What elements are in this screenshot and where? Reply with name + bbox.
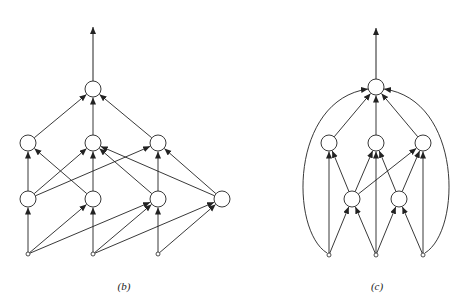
neuron-node [150, 135, 166, 151]
edge-arrow [377, 207, 396, 253]
edge-arrow [30, 204, 87, 252]
skip-connection-arc [384, 89, 449, 253]
edge-arrow [160, 205, 216, 253]
neuron-node [214, 191, 230, 207]
neuron-node [150, 191, 166, 207]
neuron-node [321, 135, 337, 151]
neuron-node [368, 135, 384, 151]
neuron-node [20, 135, 36, 151]
neuron-node [20, 191, 36, 207]
network-panel-c [303, 28, 449, 257]
neural-network-diagrams [0, 0, 470, 294]
input-node [421, 253, 425, 257]
neuron-node [85, 191, 101, 207]
edge-arrow [30, 202, 150, 253]
edge-arrow [164, 149, 216, 194]
input-node [374, 253, 378, 257]
input-node [26, 252, 30, 256]
neuron-node [368, 79, 384, 95]
edge-arrow [355, 151, 373, 192]
neuron-node [85, 135, 101, 151]
neuron-node [391, 191, 407, 207]
panel-label-c: (c) [371, 280, 383, 292]
input-node [327, 253, 331, 257]
edge-arrow [330, 207, 349, 253]
edge-arrow [332, 151, 349, 192]
neuron-node [85, 81, 101, 97]
edge-arrow [34, 94, 86, 137]
edge-arrow [355, 207, 375, 253]
edge-arrow [402, 207, 422, 253]
edge-arrow [95, 204, 152, 252]
panel-label-b: (b) [118, 280, 131, 292]
edge-arrow [95, 202, 214, 253]
skip-connection-arc [303, 89, 368, 253]
edge-arrow [99, 149, 151, 194]
edge-arrow [100, 94, 152, 137]
input-node [91, 252, 95, 256]
edge-arrow [379, 151, 396, 192]
neuron-node [415, 135, 431, 151]
neuron-node [344, 191, 360, 207]
input-node [156, 252, 160, 256]
network-panel-b [20, 27, 230, 256]
